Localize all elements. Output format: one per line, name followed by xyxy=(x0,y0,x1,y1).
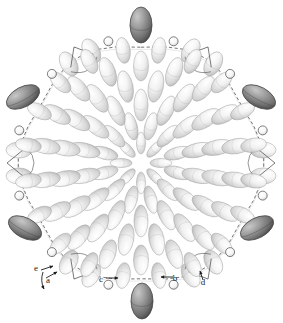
rosette-ellipsoid-r4-0 xyxy=(134,51,149,81)
label-text-e: e xyxy=(34,263,38,273)
rosette-ellipsoid-r4-9 xyxy=(134,245,149,275)
atom-marker-7 xyxy=(47,248,56,257)
atom-marker-10 xyxy=(47,69,56,78)
molecular-diagram-canvas: abcde xyxy=(0,0,283,323)
dark-ellipsoid-bottom-body xyxy=(131,283,153,319)
atom-marker-6 xyxy=(104,280,113,289)
dark-ellipsoid-bottom xyxy=(131,283,153,319)
label-text-a: a xyxy=(46,275,50,285)
atom-marker-2 xyxy=(258,126,267,135)
atom-marker-3 xyxy=(258,191,267,200)
label-text-b: b xyxy=(173,273,178,283)
atom-marker-0 xyxy=(169,37,178,46)
figure-root: abcde xyxy=(0,0,283,323)
atom-marker-9 xyxy=(15,126,24,135)
rosette-ellipsoid-r4-0-body xyxy=(134,51,149,81)
atom-marker-8 xyxy=(15,191,24,200)
rosette-ellipsoid-r2-0 xyxy=(134,89,148,121)
atom-marker-4 xyxy=(226,248,235,257)
rosette-ellipsoid-r2-7 xyxy=(134,205,148,237)
dark-ellipsoid-top-body xyxy=(130,7,152,43)
dark-ellipsoid-top xyxy=(130,7,152,43)
label-text-c: c xyxy=(99,274,103,284)
rosette-ellipsoid-r2-0-body xyxy=(134,89,148,121)
rosette-ellipsoid-r4-9-body xyxy=(134,245,149,275)
atom-marker-11 xyxy=(104,37,113,46)
rosette-ellipsoid-r2-7-body xyxy=(134,205,148,237)
label-text-d: d xyxy=(201,277,206,287)
atom-marker-1 xyxy=(226,69,235,78)
